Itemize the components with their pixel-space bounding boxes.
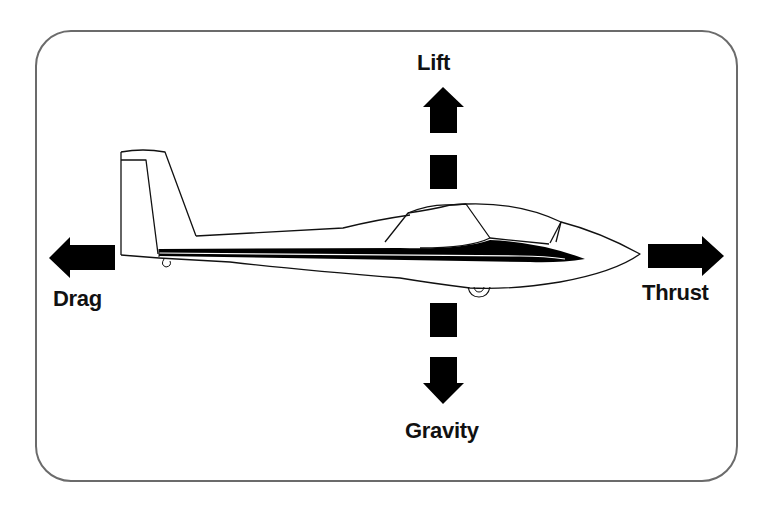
drag-label: Drag: [53, 288, 102, 310]
lift-label: Lift: [417, 52, 450, 74]
fuselage-stripe: [159, 240, 585, 262]
drag-arrow-icon: [49, 237, 115, 278]
thrust-arrow-icon: [648, 236, 724, 276]
glider-illustration: [121, 150, 640, 297]
thrust-label: Thrust: [642, 282, 709, 304]
gravity-arrow-icon: [423, 303, 464, 404]
forces-diagram: [0, 0, 771, 514]
gravity-label: Gravity: [405, 420, 479, 442]
lift-arrow-icon: [423, 87, 464, 189]
